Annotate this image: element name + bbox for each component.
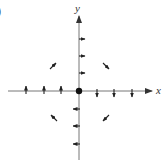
vector-quadrant-iv: [103, 115, 109, 121]
x-axis-label: x: [156, 85, 161, 96]
vector-quadrant-ii: [50, 63, 56, 69]
vector-field-diagram: ): [0, 0, 165, 165]
y-axis-label: y: [75, 3, 80, 14]
vector-quadrant-iii: [51, 115, 57, 121]
plot-canvas: [0, 0, 165, 165]
vector-quadrant-i: [103, 63, 109, 69]
origin-dot: [76, 88, 82, 94]
vectors-negative-x-axis: [26, 86, 61, 94]
vectors-positive-x-axis: [97, 89, 132, 97]
vectors-positive-y-axis: [79, 39, 85, 73]
panel-label: ): [0, 5, 1, 17]
